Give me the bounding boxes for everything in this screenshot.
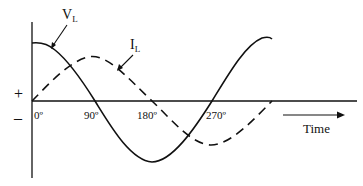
vl-curve — [32, 37, 272, 162]
tick-90: 90º — [84, 110, 98, 121]
vl-label: VL — [62, 8, 78, 24]
il-label: IL — [130, 38, 140, 54]
negative-sign: – — [14, 110, 22, 126]
tick-180: 180º — [137, 110, 157, 121]
time-arrowhead-icon — [337, 112, 345, 119]
time-label: Time — [303, 122, 330, 135]
waveform-diagram — [0, 0, 363, 186]
tick-270: 270º — [206, 110, 226, 121]
tick-0: 0º — [34, 110, 43, 121]
positive-sign: + — [14, 86, 23, 102]
